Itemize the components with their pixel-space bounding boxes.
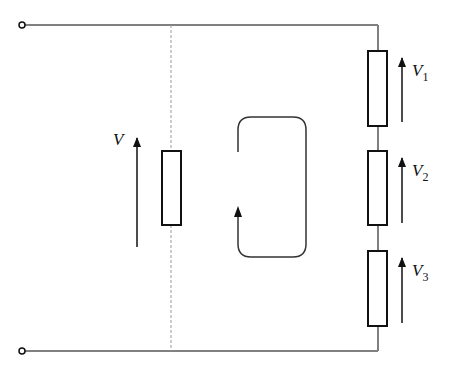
circuit-diagram: V V1 V2 V3 bbox=[0, 0, 456, 383]
source-resistor-icon bbox=[162, 151, 181, 225]
source-voltage-label: V bbox=[113, 130, 126, 149]
terminal-top-icon bbox=[19, 22, 25, 28]
resistor-2-icon bbox=[368, 151, 387, 225]
v1-label: V1 bbox=[412, 61, 428, 84]
wires bbox=[25, 25, 378, 351]
terminal-bottom-icon bbox=[19, 348, 25, 354]
resistor-1-icon bbox=[368, 51, 387, 126]
v2-label: V2 bbox=[412, 161, 428, 184]
loop-arrowhead-icon bbox=[234, 206, 242, 217]
resistor-3-icon bbox=[368, 251, 387, 326]
loop-path-icon bbox=[238, 117, 306, 257]
v3-label: V3 bbox=[412, 261, 428, 284]
